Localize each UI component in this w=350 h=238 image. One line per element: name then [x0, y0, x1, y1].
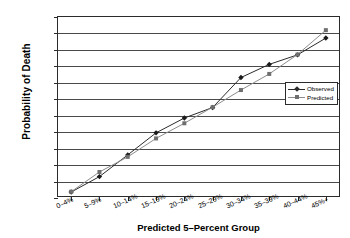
observed-series-icon [288, 86, 305, 93]
x-axis-title: Predicted 5–Percent Group [57, 222, 340, 233]
y-tick-mark [54, 198, 58, 199]
legend-item-observed: Observed [288, 85, 334, 94]
data-series-layer [57, 16, 340, 197]
data-point-observed [323, 35, 328, 40]
data-point-predicted [126, 155, 130, 159]
data-point-predicted [154, 136, 158, 140]
data-point-predicted [324, 28, 328, 32]
x-tick-label: 45%+ [310, 196, 329, 210]
predicted-series-icon [288, 94, 305, 101]
y-axis-title: Probability of Death [21, 12, 32, 172]
data-point-predicted [267, 72, 271, 76]
legend-item-predicted: Predicted [288, 94, 334, 103]
data-point-predicted [296, 53, 300, 57]
chart-container: Probability of Death 0.000.050.100.150.2… [0, 0, 350, 238]
legend-label-predicted: Predicted [307, 94, 333, 103]
x-tick-label: 5–9% [83, 196, 102, 210]
legend-label-observed: Observed [307, 85, 334, 94]
data-point-predicted [182, 121, 186, 125]
data-point-predicted [211, 105, 215, 109]
data-point-observed [267, 62, 272, 67]
data-point-predicted [97, 170, 101, 174]
series-line-predicted [71, 30, 326, 192]
data-point-observed [182, 115, 187, 120]
data-point-predicted [69, 190, 73, 194]
data-point-predicted [239, 88, 243, 92]
x-tick-label: 0–4% [55, 196, 74, 210]
chart-legend: Observed Predicted [285, 82, 338, 105]
